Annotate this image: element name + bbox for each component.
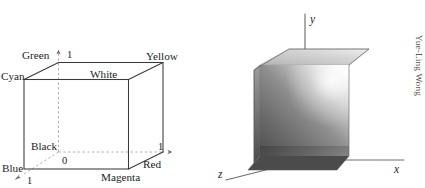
cube-top-face [260,49,369,65]
shaded-cube [248,49,369,170]
cube-front-highlight [260,65,349,156]
vertex-label-blue: Blue [2,162,23,174]
shaded-cube-figure: y x z [212,0,425,188]
vertex-label-black: Black [31,140,58,152]
axis-value-blue-axis-one: 1 [27,175,32,186]
rgb-color-cube-figure: Green Cyan Yellow White Black Blue Red M… [0,0,212,188]
vertex-label-green: Green [22,49,50,61]
cube-foot-shadow [260,146,349,156]
vertex-label-red: Red [143,158,161,170]
axis-value-green-axis-one: 1 [67,49,72,60]
credit-text: Yue-Ling Wong [414,35,424,96]
axis-value-origin: 0 [62,155,67,166]
cube-bottom-skirt [248,156,349,170]
axis-label-y: y [309,13,316,26]
vertex-label-yellow: Yellow [146,50,179,62]
axis-label-z: z [217,168,223,180]
axis-value-red-axis-one: 1 [158,141,163,152]
vertex-label-magenta: Magenta [101,171,140,183]
cube-left-face [254,65,260,163]
vertex-label-cyan: Cyan [1,70,25,82]
vertex-label-white: White [90,68,117,80]
figure-pair-canvas: Green Cyan Yellow White Black Blue Red M… [0,0,425,188]
axis-label-x: x [393,163,400,175]
